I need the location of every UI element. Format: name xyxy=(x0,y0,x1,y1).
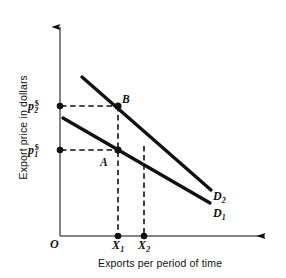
origin-label: O xyxy=(50,238,59,250)
demand-curve-d1 xyxy=(63,118,210,203)
x-tick-label-x2: X2 xyxy=(138,239,150,254)
x-tick-label-x1: X1 xyxy=(112,239,124,254)
plot-canvas xyxy=(0,0,286,278)
tick-dot-p2 xyxy=(57,103,64,110)
tick-dot-p1 xyxy=(57,147,64,154)
point-A-marker xyxy=(114,146,121,153)
point-B-marker xyxy=(114,102,121,109)
point-label-b: B xyxy=(122,94,130,106)
y-tick-label-p2: p2$ xyxy=(28,100,39,115)
demand-curve-d2 xyxy=(82,77,211,190)
x-axis-title: Exports per period of time xyxy=(98,258,222,269)
y-axis-title: Export price in dollars xyxy=(18,52,29,202)
export-demand-figure: p2$ p1$ X1 X2 O A B D2 D1 Exports per pe… xyxy=(0,0,286,278)
curve-label-d2: D2 xyxy=(213,190,226,205)
point-label-a: A xyxy=(100,157,108,169)
curve-label-d1: D1 xyxy=(213,207,226,222)
y-tick-label-p1: p1$ xyxy=(28,144,39,159)
